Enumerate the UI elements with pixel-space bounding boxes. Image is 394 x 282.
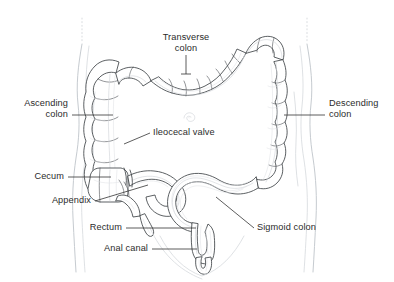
label-appendix: Appendix [21,195,91,206]
transverse-colon-structure [151,49,246,96]
leader-ileocecal-valve [124,133,150,144]
anatomy-figure: .ink { fill:none; stroke:#3f4347; stroke… [0,0,394,282]
label-sigmoid-colon: Sigmoid colon [257,222,337,233]
label-transverse-colon: Transverse colon [150,32,222,54]
label-ileocecal-valve: Ileocecal valve [153,127,233,138]
umbilicus-icon [184,113,195,122]
label-ascending-colon: Ascending colon [2,98,68,120]
hepatic-flexure [116,67,151,86]
splenic-flexure [246,36,284,60]
descending-colon-structure [256,60,287,189]
appendix-structure [140,214,154,236]
label-descending-colon: Descending colon [329,98,393,120]
leader-sigmoid-colon [216,197,254,228]
label-rectum: Rectum [60,222,122,233]
label-anal-canal: Anal canal [80,243,148,254]
label-cecum: Cecum [4,171,64,182]
